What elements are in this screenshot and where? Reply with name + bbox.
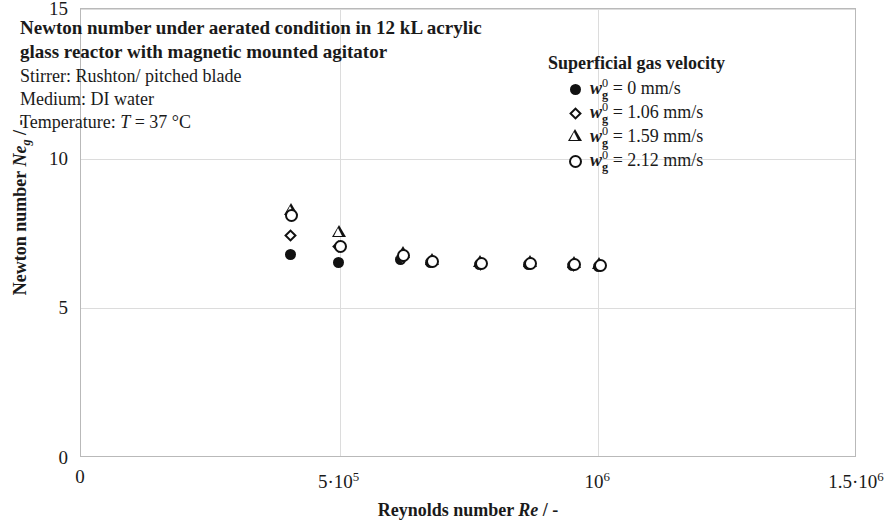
legend-marker-diamond [564, 102, 590, 124]
data-point-diamond [284, 230, 297, 243]
legend: Superficial gas velocity w0g = 0 mm/sw0g… [542, 52, 842, 173]
x-axis-title-suffix: / - [538, 500, 558, 520]
annotation-title: Newton number under aerated condition in… [20, 16, 520, 64]
x-tick-label: 1.5·106 [828, 466, 884, 493]
annotation-line-stirrer: Stirrer: Rushton/ pitched blade [20, 65, 520, 88]
legend-rows: w0g = 0 mm/sw0g = 1.06 mm/sw0g = 1.59 mm… [542, 77, 842, 173]
x-tick-label: 106 [585, 466, 610, 493]
data-point-filled-circle [570, 84, 581, 95]
data-point-open-circle [397, 249, 410, 262]
legend-title: Superficial gas velocity [548, 52, 842, 74]
x-tick-label: 0 [75, 466, 85, 488]
y-axis-title-prefix: Newton number [10, 167, 30, 296]
data-point-open-circle [475, 257, 488, 270]
legend-marker-triangle [564, 126, 590, 148]
temperature-value: = 37 °C [130, 112, 191, 132]
legend-marker-open-circle [564, 150, 590, 172]
data-point-open-circle [568, 258, 581, 271]
data-point-open-circle [426, 255, 439, 268]
x-axis-title-prefix: Reynolds number [378, 500, 519, 520]
temperature-symbol: T [120, 112, 130, 132]
data-point-open-circle [285, 209, 298, 222]
y-tick-label: 10 [49, 148, 68, 167]
data-point-triangle [332, 225, 346, 237]
legend-marker-filled-circle [564, 78, 590, 100]
data-point-open-circle [524, 257, 537, 270]
annotation-line-temperature: Temperature: T = 37 °C [20, 111, 520, 134]
y-axis-title-subscript: g [19, 139, 33, 145]
x-tick-label: 5·105 [318, 466, 359, 493]
x-axis-title-symbol: Re [518, 500, 538, 520]
x-axis-title: Reynolds number Re / - [80, 500, 856, 521]
y-axis-title-symbol: Ne [10, 146, 30, 167]
annotation-line-medium: Medium: DI water [20, 88, 520, 111]
data-point-open-circle [569, 155, 582, 168]
data-point-filled-circle [333, 257, 344, 268]
temperature-label: Temperature: [20, 112, 120, 132]
legend-item-3: w0g = 2.12 mm/s [564, 149, 842, 173]
chart-figure: 051015 Newton number Neg / - 05·1051061.… [0, 0, 896, 531]
x-axis-tick-labels: 05·1051061.5·106 [80, 466, 856, 494]
y-tick-label: 5 [59, 298, 69, 317]
y-tick-label: 0 [59, 448, 69, 467]
data-point-filled-circle [285, 249, 296, 260]
data-point-open-circle [594, 259, 607, 272]
annotation-block: Newton number under aerated condition in… [20, 16, 520, 134]
data-point-triangle [568, 129, 582, 141]
data-point-open-circle [334, 240, 347, 253]
legend-label-3: w0g = 2.12 mm/s [590, 144, 703, 178]
data-point-diamond [569, 107, 582, 120]
y-tick-label: 15 [49, 0, 68, 18]
